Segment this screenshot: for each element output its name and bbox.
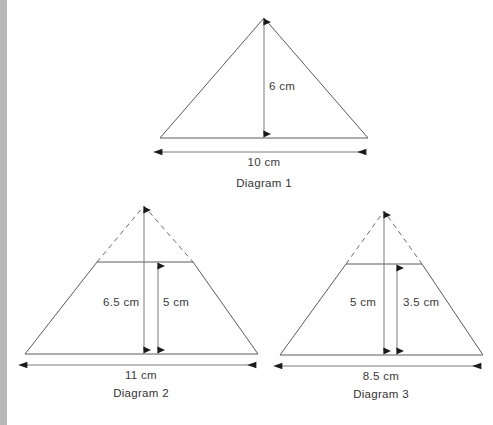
- diagram-3-group: 5 cm 3.5 cm 8.5 cm Diagram 3: [280, 211, 483, 400]
- diagram-2-caption: Diagram 2: [113, 387, 169, 399]
- diagram-3-caption: Diagram 3: [353, 388, 409, 400]
- diagram-2-group: 6.5 cm 5 cm 11 cm Diagram 2: [25, 206, 258, 399]
- diagram-2-trapezium-height-label: 5 cm: [163, 296, 189, 308]
- diagram-1-height-label: 6 cm: [269, 80, 295, 92]
- diagram-3-trapezium-height-label: 3.5 cm: [403, 296, 439, 308]
- diagram-3-trapezium-outline: [280, 264, 483, 355]
- diagram-3-base-label: 8.5 cm: [363, 370, 399, 382]
- diagram-1-group: 6 cm 10 cm Diagram 1: [160, 18, 368, 189]
- diagram-1-caption: Diagram 1: [236, 177, 292, 189]
- diagram-page: 6 cm 10 cm Diagram 1 6.5 cm 5 cm 11 cm D…: [0, 0, 493, 425]
- diagram-2-dashed-apex-lines: [97, 206, 193, 262]
- diagram-2-trapezium-outline: [25, 262, 258, 354]
- geometry-figure: 6 cm 10 cm Diagram 1 6.5 cm 5 cm 11 cm D…: [0, 0, 493, 425]
- diagram-1-base-label: 10 cm: [248, 156, 281, 168]
- diagram-3-full-height-label: 5 cm: [350, 296, 376, 308]
- diagram-2-base-label: 11 cm: [125, 369, 157, 381]
- diagram-2-full-height-label: 6.5 cm: [103, 296, 139, 308]
